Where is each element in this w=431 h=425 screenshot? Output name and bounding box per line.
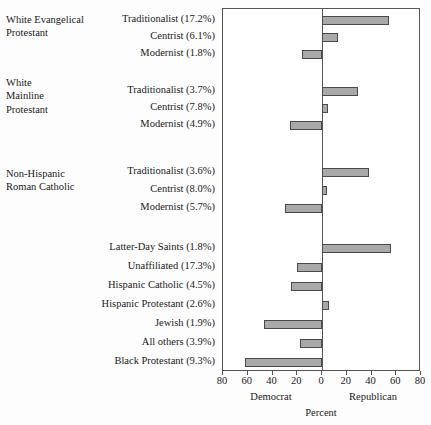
bar	[245, 358, 322, 367]
category-label: Centrist (8.0%)	[15, 183, 215, 195]
bar	[300, 339, 322, 348]
bar	[291, 282, 322, 291]
x-axis-title: Percent	[222, 407, 420, 418]
category-label: Centrist (6.1%)	[15, 30, 215, 42]
bar	[297, 263, 322, 272]
category-label: All others (3.9%)	[15, 336, 215, 348]
bar	[264, 320, 322, 329]
bar	[322, 16, 389, 25]
category-label: Black Protestant (9.3%)	[15, 355, 215, 367]
bar	[290, 121, 322, 130]
bar	[322, 301, 329, 310]
bar	[322, 168, 369, 177]
category-label: Unaffiliated (17.3%)	[15, 260, 215, 272]
religious-tradition-partisanship-chart: White EvangelicalProtestantWhiteMainline…	[0, 0, 431, 425]
category-label: Hispanic Protestant (2.6%)	[15, 298, 215, 310]
axis-label-democrat: Democrat	[226, 391, 316, 402]
category-label: Traditionalist (3.7%)	[15, 84, 215, 96]
category-label: Centrist (7.8%)	[15, 101, 215, 113]
bar	[302, 50, 322, 59]
category-label: Hispanic Catholic (4.5%)	[15, 279, 215, 291]
bar	[322, 104, 328, 113]
bar	[285, 204, 322, 213]
category-label: Modernist (4.9%)	[15, 118, 215, 130]
bar	[322, 244, 391, 253]
plot-area	[222, 8, 420, 371]
category-label: Traditionalist (3.6%)	[15, 165, 215, 177]
x-tick-label: 80	[405, 375, 431, 386]
category-label: Jewish (1.9%)	[15, 317, 215, 329]
category-label: Latter-Day Saints (1.8%)	[15, 241, 215, 253]
x-axis: 80604020020406080 Democrat Republican Pe…	[222, 371, 420, 425]
category-label: Modernist (5.7%)	[15, 201, 215, 213]
category-label: Traditionalist (17.2%)	[15, 13, 215, 25]
bar	[322, 87, 358, 96]
axis-label-republican: Republican	[328, 391, 418, 402]
bar	[322, 186, 327, 195]
category-label: Modernist (1.8%)	[15, 47, 215, 59]
bar	[322, 33, 338, 42]
